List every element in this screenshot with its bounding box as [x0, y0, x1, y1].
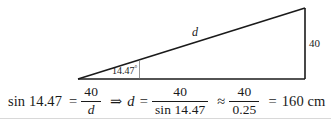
fraction-3-numerator: 40: [235, 85, 255, 100]
equals-sign-2: =: [140, 93, 148, 110]
equals-sign-1: =: [69, 93, 77, 110]
equals-sign-3: =: [268, 93, 276, 110]
fraction-3-denominator: 0.25: [229, 102, 259, 117]
fraction-1-numerator: 40: [81, 85, 101, 100]
fraction-2-denominator: sin 14.47: [152, 102, 208, 117]
hypotenuse-label: d: [192, 26, 198, 38]
fraction-2-numerator: 40: [170, 85, 190, 100]
degree-symbol: °: [135, 64, 138, 72]
angle-label: 14.47°: [112, 65, 137, 76]
implies-symbol: ⇒: [110, 93, 122, 110]
fraction-40-over-sin: 40 sin 14.47: [152, 85, 208, 116]
bottom-divider: [0, 118, 331, 119]
variable-d: d: [127, 93, 134, 110]
sin-function-term: sin 14.47: [8, 93, 62, 110]
equation-line: sin 14.47 = 40 d ⇒ d = 40 sin 14.47 ≈ 40…: [8, 84, 325, 118]
angle-value: 14.47: [112, 65, 135, 76]
fraction-40-over-d: 40 d: [81, 85, 101, 116]
opposite-side-label: 40: [309, 38, 320, 49]
approx-symbol: ≈: [217, 93, 225, 110]
result-value: 160 cm: [282, 93, 326, 110]
triangle-figure: d 40 14.47°: [0, 0, 331, 86]
triangle-svg: [0, 0, 331, 86]
fraction-1-denominator: d: [85, 102, 98, 117]
fraction-40-over-025: 40 0.25: [229, 85, 259, 116]
figure-page: d 40 14.47° sin 14.47 = 40 d ⇒ d = 40 si…: [0, 0, 331, 121]
